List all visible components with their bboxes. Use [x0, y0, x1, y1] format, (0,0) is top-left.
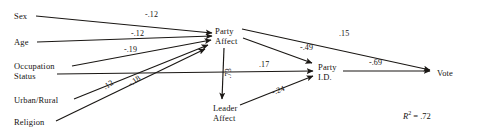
node-sex-label: Sex: [14, 11, 27, 21]
node-party-affect-label-line2: Affect: [215, 36, 237, 46]
edge-occupation-to-party-id: [57, 71, 313, 74]
path-diagram: Sex Age Occupation Status Urban/Rural Re…: [0, 0, 479, 138]
node-age: Age: [14, 37, 29, 47]
coef-party-affect-to-vote: .15: [339, 29, 349, 38]
node-leader-affect-label-line2: Affect: [213, 113, 238, 123]
node-vote: Vote: [437, 68, 453, 78]
edge-age-to-party-affect: [37, 36, 212, 42]
edge-sex-to-party-affect: [36, 16, 212, 33]
fit-statistic: R2 = .72: [403, 110, 431, 121]
node-party-affect-label: Party: [215, 26, 234, 36]
node-party-id-label-line2: I.D.: [318, 72, 337, 82]
node-age-label: Age: [14, 37, 29, 47]
coef-occupation-to-party-affect: -.19: [124, 45, 137, 54]
coef-sex-to-party-affect: -.12: [145, 10, 158, 19]
fit-statistic-value: = .72: [413, 111, 431, 121]
node-party-id-label: Party: [318, 62, 337, 72]
node-occupation-status: Occupation Status: [14, 61, 55, 81]
fit-statistic-exponent: 2: [408, 110, 411, 116]
node-leader-affect-label: Leader: [213, 103, 238, 113]
coef-party-id-to-vote: -.69: [369, 58, 382, 67]
coef-occupation-to-party-id: .17: [259, 60, 269, 69]
node-sex: Sex: [14, 11, 27, 21]
node-religion: Religion: [14, 117, 44, 127]
edge-occupation-to-party-affect: [72, 40, 211, 66]
node-occupation-label: Occupation: [14, 61, 55, 71]
coef-age-to-party-affect: -.12: [131, 29, 144, 38]
node-urban-rural-label: Urban/Rural: [14, 95, 58, 105]
coef-party-affect-to-party-id: -.49: [300, 43, 313, 52]
coef-party-affect-to-leader-affect: .73: [224, 68, 233, 78]
node-vote-label: Vote: [437, 68, 453, 78]
node-urban-rural: Urban/Rural: [14, 95, 58, 105]
node-religion-label: Religion: [14, 117, 44, 127]
node-leader-affect: Leader Affect: [213, 103, 238, 123]
node-party-id: Party I.D.: [318, 62, 337, 82]
node-occupation-label-line2: Status: [14, 71, 55, 81]
node-party-affect: Party Affect: [215, 26, 237, 46]
